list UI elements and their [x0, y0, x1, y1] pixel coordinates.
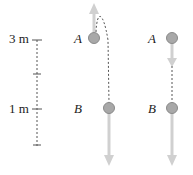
- left-ball-b: [104, 103, 115, 114]
- left-downward-velocity-arrow: [104, 112, 114, 166]
- left-upward-velocity-arrow: [89, 3, 99, 32]
- left-point-a-label: A: [74, 32, 82, 45]
- scale-label-1m: 1 m: [9, 102, 29, 115]
- right-velocity-arrow-a: [167, 42, 177, 67]
- scale-label-3m: 3 m: [9, 32, 29, 45]
- right-velocity-arrow-b: [167, 112, 177, 166]
- left-trajectory-path: [96, 16, 109, 103]
- right-point-a-label: A: [148, 32, 156, 45]
- right-ball-b: [167, 103, 178, 114]
- right-ball-a: [167, 33, 178, 44]
- left-point-b-label: B: [74, 102, 82, 115]
- left-ball-a: [89, 33, 100, 44]
- height-scale: [32, 40, 42, 147]
- right-point-b-label: B: [148, 102, 156, 115]
- diagram-canvas: [0, 0, 193, 175]
